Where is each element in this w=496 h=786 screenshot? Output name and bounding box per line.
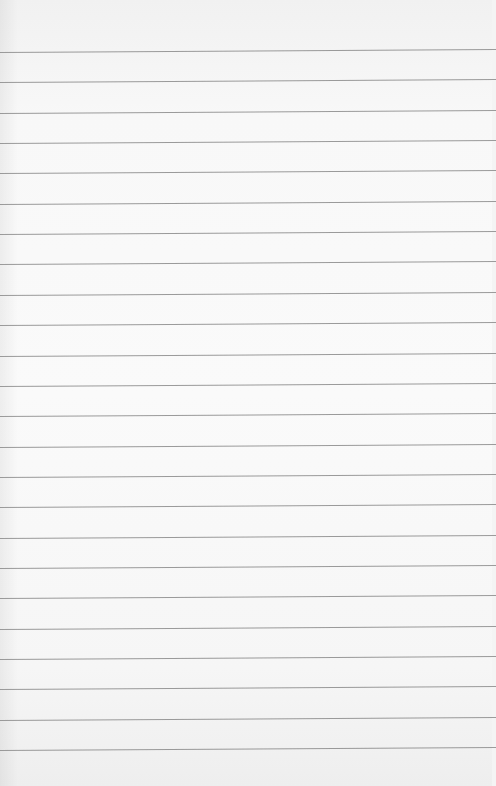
ruled-line (0, 201, 496, 205)
ruled-line (0, 686, 496, 690)
ruled-line (0, 535, 496, 539)
ruled-line (0, 656, 496, 660)
ruled-line (0, 322, 496, 326)
ruled-line (0, 504, 496, 508)
ruled-line (0, 79, 496, 83)
ruled-line (0, 231, 496, 235)
ruled-line (0, 292, 496, 296)
ruled-line (0, 717, 496, 721)
ruled-line (0, 565, 496, 569)
ruled-line (0, 474, 496, 478)
ruled-line (0, 413, 496, 417)
ruled-line (0, 383, 496, 387)
ruled-line (0, 140, 496, 144)
ruled-line (0, 49, 496, 53)
ruled-line (0, 626, 496, 630)
ruled-line (0, 444, 496, 448)
ruled-line (0, 595, 496, 599)
ruled-line (0, 261, 496, 265)
ruled-line (0, 352, 496, 356)
ruled-line (0, 747, 496, 751)
ruled-line (0, 110, 496, 114)
ruled-line (0, 170, 496, 174)
